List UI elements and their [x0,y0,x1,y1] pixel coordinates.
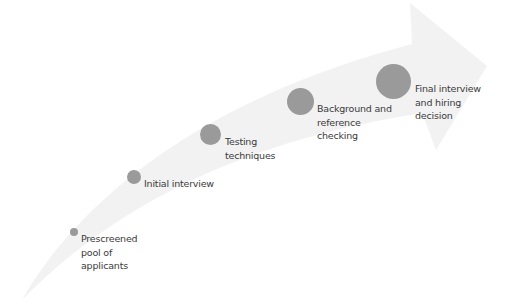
step-4-label: Background and reference checking [317,102,392,143]
step-3-dot [200,124,221,145]
step-2-label: Initial interview [144,177,214,191]
step-1-dot [70,228,78,236]
step-5-label: Final interview and hiring decision [415,82,481,123]
step-2-dot [127,170,141,184]
step-3-label: Testing techniques [225,135,275,162]
step-1-label: Prescreened pool of applicants [81,232,137,273]
step-4-dot [287,88,314,115]
step-5-dot [376,64,411,99]
